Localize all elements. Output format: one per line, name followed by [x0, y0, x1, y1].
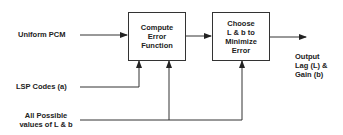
- input-lsp-codes-label: LSP Codes (a): [16, 82, 67, 91]
- output-label: Output Lag (L) & Gain (b): [295, 52, 328, 79]
- input-uniform-pcm-label: Uniform PCM: [18, 30, 66, 39]
- input-all-possible-label: All Possible values of L & b: [16, 111, 76, 129]
- compute-block-label: Compute Error Function: [141, 23, 174, 50]
- compute-error-function-block: Compute Error Function: [128, 12, 186, 61]
- diagram: Uniform PCM LSP Codes (a) All Possible v…: [0, 0, 343, 135]
- choose-block-label: Choose L & b to Minimize Error: [225, 19, 257, 55]
- choose-minimize-error-block: Choose L & b to Minimize Error: [212, 12, 270, 61]
